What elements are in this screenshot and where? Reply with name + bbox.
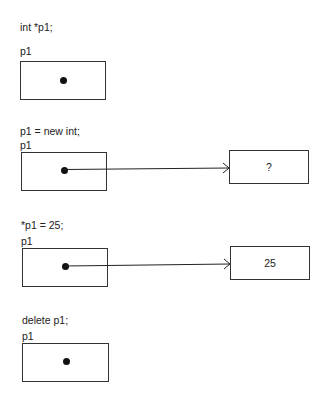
statement-assign-25: *p1 = 25; [21, 219, 63, 231]
pointer-label: p1 [22, 330, 34, 342]
pointer-label: p1 [21, 235, 33, 247]
pointer-dot-icon [60, 77, 67, 84]
pointer-box [20, 61, 106, 100]
pointer-box [22, 343, 109, 382]
heap-value-box: 25 [230, 246, 310, 280]
pointer-label: p1 [20, 45, 32, 57]
statement-delete-p1: delete p1; [22, 314, 68, 326]
pointer-box [21, 152, 107, 191]
pointer-dot-icon [63, 358, 70, 365]
heap-value: ? [230, 161, 308, 173]
pointer-box [22, 248, 108, 287]
pointer-dot-icon [62, 263, 69, 270]
heap-value-box: ? [229, 150, 309, 184]
pointer-label: p1 [20, 139, 32, 151]
pointer-arrows [0, 0, 327, 399]
statement-new-int: p1 = new int; [20, 125, 80, 137]
heap-value: 25 [231, 257, 309, 269]
statement-int-p1: int *p1; [20, 21, 53, 33]
pointer-dot-icon [61, 167, 68, 174]
